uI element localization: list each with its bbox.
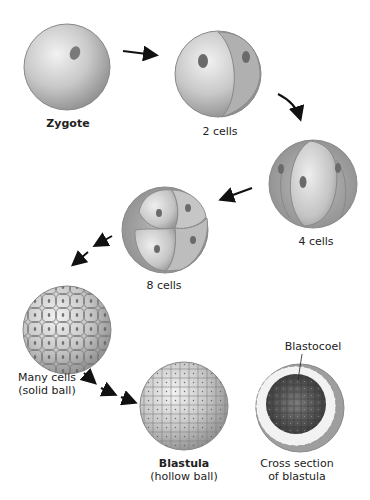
arrow-4cells-to-8cells [222, 188, 252, 199]
embryo-development-diagram: Zygote 2 cells 4 cells 8 cells Many cell… [0, 0, 370, 500]
label-8-cells: 8 cells [136, 279, 192, 292]
arrow-2cells-to-4cells [278, 94, 300, 118]
blastula-cross-section [256, 354, 344, 452]
label-2-cells: 2 cells [192, 125, 248, 138]
arrow-many-to-blastula-b [101, 388, 114, 394]
label-cross-section-line2: of blastula [252, 470, 342, 483]
label-zygote: Zygote [38, 117, 98, 130]
label-blastocoel: Blastocoel [278, 340, 348, 353]
label-blastula-line2: (hollow ball) [144, 470, 224, 483]
blastula [138, 360, 230, 452]
label-many-cells: Many cells (solid ball) [12, 371, 82, 397]
arrow-8cells-to-many-b [74, 252, 88, 264]
arrow-many-to-blastula-c [121, 397, 134, 402]
label-many-cells-line1: Many cells [12, 371, 82, 384]
morula [20, 283, 115, 378]
two-cell-embryo [175, 31, 261, 117]
label-blastula: Blastula (hollow ball) [144, 457, 224, 483]
arrow-8cells-to-many-a [96, 236, 112, 245]
arrow-many-to-blastula-a [84, 373, 94, 382]
label-4-cells: 4 cells [288, 235, 344, 248]
arrow-zygote-to-2cells [123, 51, 155, 55]
label-many-cells-line2: (solid ball) [12, 384, 82, 397]
eight-cell-embryo [122, 187, 208, 273]
zygote-sphere [24, 24, 110, 110]
label-cross-section-line1: Cross section [252, 457, 342, 470]
label-cross-section: Cross section of blastula [252, 457, 342, 483]
diagram-artwork [0, 0, 370, 500]
label-blastula-line1: Blastula [144, 457, 224, 470]
four-cell-embryo [269, 140, 357, 228]
